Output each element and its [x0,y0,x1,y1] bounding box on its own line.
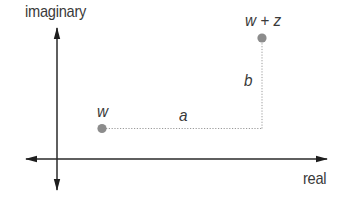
complex-plane-diagram: imaginary real w w + z a b [0,0,346,197]
point-w-plus-z [257,33,266,42]
real-axis-label: real [303,170,326,187]
diagram-canvas [0,0,346,197]
segment-a-label: a [179,107,188,124]
point-w-label: w [97,103,108,120]
imaginary-axis-label: imaginary [25,3,86,20]
segment-b-label: b [244,72,253,89]
point-w [97,124,106,133]
point-w-plus-z-label: w + z [245,12,281,29]
